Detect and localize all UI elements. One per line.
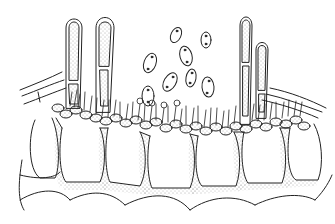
left-hyphae-lines xyxy=(20,72,66,104)
elongated-structure-3 xyxy=(240,17,252,124)
scientific-illustration xyxy=(0,0,335,224)
elongated-structure-2 xyxy=(96,18,114,113)
elongated-structure-4 xyxy=(256,43,268,119)
free-spores xyxy=(141,26,215,106)
illustration-svg xyxy=(0,0,335,224)
